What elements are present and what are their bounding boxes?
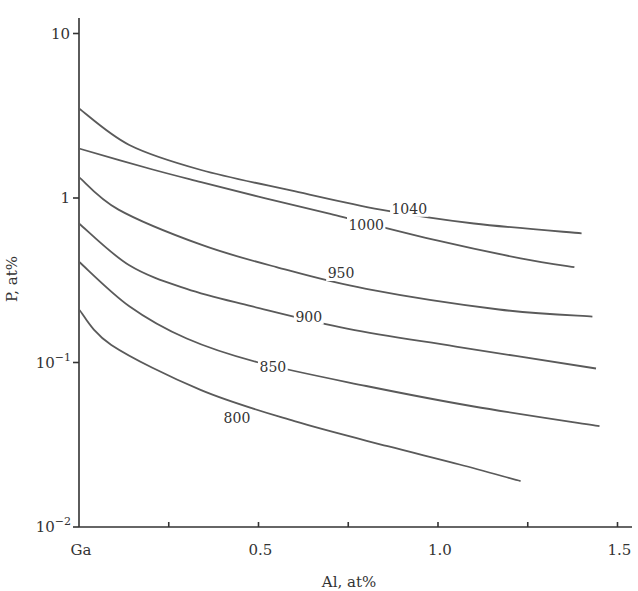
y-axis-title: P, at% — [3, 256, 21, 302]
isotherm-label-1040: 1040 — [391, 201, 427, 217]
isotherm-850 — [79, 262, 600, 427]
x-tick-label: 1.5 — [608, 541, 632, 559]
isotherm-1000 — [79, 149, 574, 268]
isotherm-950 — [79, 177, 592, 317]
isotherm-label-900: 900 — [295, 309, 322, 325]
x-tick-label: 0.5 — [249, 541, 273, 559]
x-tick-label: Ga — [71, 541, 92, 559]
y-tick-label: 10 — [51, 25, 70, 43]
isotherm-800 — [79, 310, 521, 482]
isotherm-label-850: 850 — [259, 359, 286, 375]
x-axis-title: Al, at% — [321, 573, 376, 591]
axes: Ga0.51.01.510110−110−2 — [36, 18, 632, 559]
isotherm-label-800: 800 — [224, 410, 251, 426]
y-tick-label: 1 — [60, 189, 70, 207]
chart: Ga0.51.01.510110−110−2 10401000950900850… — [0, 0, 638, 591]
y-tick-label: 10−1 — [36, 351, 71, 372]
x-tick-label: 1.0 — [428, 541, 452, 559]
isotherm-label-1000: 1000 — [348, 217, 384, 233]
y-tick-label: 10−2 — [36, 515, 71, 536]
isotherm-900 — [79, 224, 596, 369]
isotherm-label-950: 950 — [328, 265, 355, 281]
isotherm-curves — [79, 109, 600, 482]
